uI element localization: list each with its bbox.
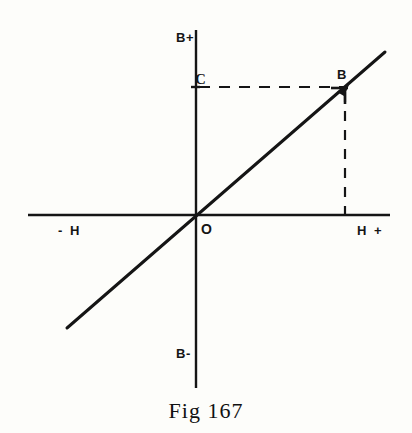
bh-line bbox=[67, 52, 385, 328]
figure-container: B+ C B - H O H + B- Fig 167 bbox=[0, 0, 412, 433]
label-point-c: C bbox=[195, 72, 206, 87]
label-b-negative: B- bbox=[176, 347, 191, 360]
label-b-positive: B+ bbox=[176, 31, 194, 44]
point-b-arrow-icon bbox=[331, 85, 349, 104]
label-h-negative: - H bbox=[58, 224, 81, 237]
label-h-positive: H + bbox=[357, 224, 384, 237]
figure-caption: Fig 167 bbox=[0, 398, 412, 424]
bh-curve-diagram bbox=[0, 0, 412, 433]
label-point-b: B bbox=[337, 68, 347, 81]
label-origin: O bbox=[201, 222, 212, 236]
